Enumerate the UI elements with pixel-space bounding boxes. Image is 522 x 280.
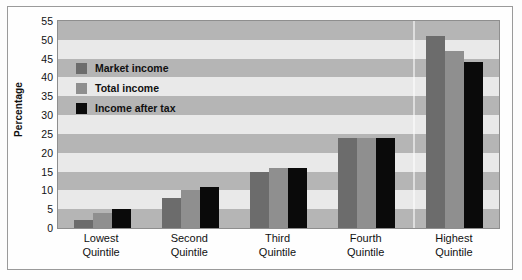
x-tick-label-line: Quintile	[410, 246, 498, 260]
bar	[357, 138, 376, 228]
legend-label: Income after tax	[95, 102, 176, 114]
y-axis-ticks: 5550454035302520151050	[5, 20, 53, 229]
y-tick-label: 55	[9, 16, 53, 26]
y-tick-label: 15	[9, 167, 53, 177]
bar-group	[146, 21, 234, 228]
y-tick-label: 25	[9, 129, 53, 139]
x-tick-label: ThirdQuintile	[233, 232, 321, 259]
bar-group	[234, 21, 322, 228]
y-tick-label: 5	[9, 204, 53, 214]
x-axis-labels: LowestQuintileSecondQuintileThirdQuintil…	[57, 232, 500, 272]
x-tick-label-line: Quintile	[145, 246, 233, 260]
legend-swatch-icon	[76, 103, 87, 114]
bar-group	[411, 21, 499, 228]
x-tick-label-line: Quintile	[57, 246, 145, 260]
x-tick-label: FourthQuintile	[322, 232, 410, 259]
y-tick-label: 45	[9, 54, 53, 64]
y-tick-label: 30	[9, 110, 53, 120]
bar	[376, 138, 395, 228]
x-tick-label-line: Quintile	[233, 246, 321, 260]
x-tick-label-line: Second	[145, 232, 233, 246]
bar	[288, 168, 307, 228]
bar	[464, 62, 483, 228]
legend-item: Income after tax	[76, 100, 266, 116]
bar	[74, 220, 93, 228]
legend-swatch-icon	[76, 63, 87, 74]
chart-figure: Percentage 5550454035302520151050 Lowest…	[0, 0, 522, 280]
bar	[250, 172, 269, 228]
bar	[162, 198, 181, 228]
x-tick-label-line: Highest	[410, 232, 498, 246]
y-tick-label: 50	[9, 35, 53, 45]
bar	[93, 213, 112, 228]
legend-swatch-icon	[76, 83, 87, 94]
y-tick-label: 10	[9, 185, 53, 195]
bar	[338, 138, 357, 228]
y-tick-label: 20	[9, 148, 53, 158]
bar	[181, 190, 200, 228]
x-tick-label: HighestQuintile	[410, 232, 498, 259]
x-tick-label-line: Third	[233, 232, 321, 246]
chart-legend: Market incomeTotal incomeIncome after ta…	[76, 60, 266, 120]
bar	[445, 51, 464, 228]
x-tick-label-line: Fourth	[322, 232, 410, 246]
bar	[200, 187, 219, 228]
y-tick-label: 35	[9, 91, 53, 101]
y-tick-label: 40	[9, 72, 53, 82]
bar	[426, 36, 445, 228]
legend-label: Market income	[95, 62, 169, 74]
legend-label: Total income	[95, 82, 159, 94]
plot-area	[57, 20, 500, 229]
x-tick-label: LowestQuintile	[57, 232, 145, 259]
bar	[269, 168, 288, 228]
x-tick-label-line: Quintile	[322, 246, 410, 260]
legend-item: Total income	[76, 80, 266, 96]
bar	[112, 209, 131, 228]
x-tick-label: SecondQuintile	[145, 232, 233, 259]
bar-group	[323, 21, 411, 228]
legend-item: Market income	[76, 60, 266, 76]
y-tick-label: 0	[9, 223, 53, 233]
bar-group	[58, 21, 146, 228]
x-tick-label-line: Lowest	[57, 232, 145, 246]
